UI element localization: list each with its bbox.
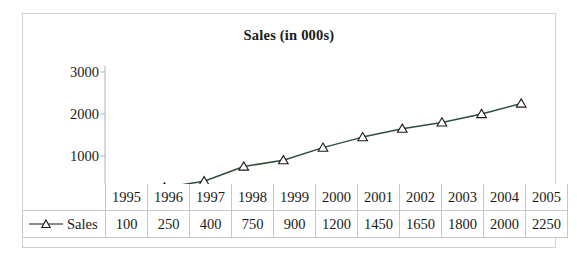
value-cell: 1800 [442,211,484,238]
value-cell: 100 [106,211,148,238]
value-cell: 1200 [316,211,358,238]
value-cell: 750 [232,211,274,238]
value-cell: 1450 [358,211,400,238]
year-cell: 2000 [316,184,358,211]
value-cell: 2250 [526,211,568,238]
legend-label-sales: Sales [67,216,98,233]
legend-cell: Sales [23,211,106,238]
table-row-sales: Sales 1002504007509001200145016501800200… [23,211,568,238]
year-cell: 1995 [106,184,148,211]
value-cell: 900 [274,211,316,238]
year-cell: 1997 [190,184,232,211]
year-cell: 2002 [400,184,442,211]
year-cell: 2004 [484,184,526,211]
year-cell: 1999 [274,184,316,211]
table-row-years: 1995199619971998199920002001200220032004… [23,184,568,211]
data-point-marker [516,99,526,107]
value-cell: 400 [190,211,232,238]
year-cell: 2005 [526,184,568,211]
year-row-spacer [23,184,106,211]
legend-line-triangle-icon [29,218,63,230]
chart-title: Sales (in 000s) [23,27,555,44]
year-cell: 1996 [148,184,190,211]
data-table: 1995199619971998199920002001200220032004… [22,184,568,238]
value-cell: 250 [148,211,190,238]
value-cell: 2000 [484,211,526,238]
value-cell: 1650 [400,211,442,238]
y-tick-label: 2000 [51,107,99,122]
y-tick-label: 3000 [51,65,99,80]
year-cell: 2001 [358,184,400,211]
year-cell: 2003 [442,184,484,211]
y-tick-label: 1000 [51,149,99,164]
year-cell: 1998 [232,184,274,211]
line-chart-svg [105,72,541,198]
plot-area [105,72,541,198]
y-axis-tick-labels: 0100020003000 [51,72,99,198]
